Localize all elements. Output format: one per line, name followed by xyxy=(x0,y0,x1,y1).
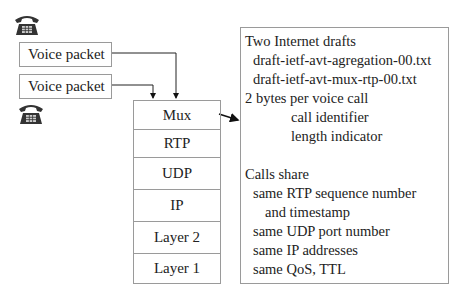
info-line: same QoS, TTL xyxy=(245,260,448,279)
layer-udp: UDP xyxy=(134,158,220,190)
info-line: same UDP port number xyxy=(245,222,448,241)
layer-mux: Mux xyxy=(134,101,220,130)
info-line: call identifier xyxy=(245,108,448,127)
info-line: length indicator xyxy=(245,127,448,146)
layer-2: Layer 2 xyxy=(134,222,220,254)
info-line: and timestamp xyxy=(245,203,448,222)
info-line: same RTP sequence number xyxy=(245,184,448,203)
layer-1: Layer 1 xyxy=(134,254,220,283)
protocol-stack: Mux RTP UDP IP Layer 2 Layer 1 xyxy=(133,100,221,284)
layer-rtp: RTP xyxy=(134,130,220,158)
layer-ip: IP xyxy=(134,190,220,222)
info-line: draft-ietf-avt-agregation-00.txt xyxy=(245,51,448,70)
info-box: Two Internet drafts draft-ietf-avt-agreg… xyxy=(240,27,449,284)
info-line: 2 bytes per voice call xyxy=(245,89,448,108)
info-line: Two Internet drafts xyxy=(245,32,448,51)
info-line: same IP addresses xyxy=(245,241,448,260)
info-line: Calls share xyxy=(245,165,448,184)
info-spacer xyxy=(245,146,448,165)
info-line: draft-ietf-avt-mux-rtp-00.txt xyxy=(245,70,448,89)
